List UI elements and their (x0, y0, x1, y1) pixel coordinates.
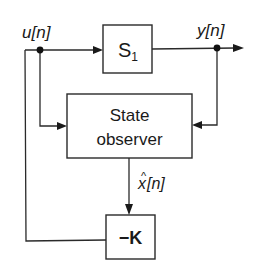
block-diagram: S1 State observer −K u[n] y[n] x ^ [n] (0, 0, 263, 274)
gain-block: −K (106, 215, 155, 259)
output-signal-label: y[n] (196, 21, 226, 40)
estimate-signal-label: x ^ [n] (137, 170, 165, 192)
junction-dot-y (214, 45, 221, 52)
arrowhead-output (233, 44, 244, 52)
observer-label-line1: State (110, 106, 150, 125)
arrowhead-gain-input (125, 204, 133, 215)
gain-label: −K (119, 228, 143, 248)
svg-text:[n]: [n] (146, 175, 165, 192)
junction-dot-u (37, 47, 44, 54)
arrowhead-observer-y-input (192, 121, 202, 129)
wire-u-to-observer (40, 50, 60, 126)
wire-y-to-observer (199, 48, 217, 125)
wire-plant-to-output (152, 48, 236, 49)
arrowhead-plant-input (93, 46, 103, 54)
arrowhead-observer-u-input (57, 122, 67, 130)
input-signal-label: u[n] (22, 23, 52, 42)
plant-block: S1 (103, 25, 152, 73)
observer-block: State observer (67, 94, 192, 158)
observer-label-line2: observer (96, 130, 162, 149)
